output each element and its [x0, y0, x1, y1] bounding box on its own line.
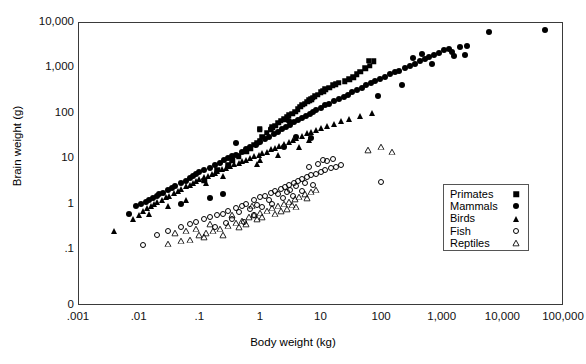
data-point-fish — [330, 156, 336, 162]
data-point-mammals — [207, 195, 213, 201]
data-point-birds — [257, 157, 263, 163]
data-point-reptiles — [378, 143, 385, 149]
x-tick-label: 100,000 — [542, 311, 584, 323]
legend-item-reptiles: Reptiles — [444, 237, 528, 249]
data-point-primates — [366, 58, 372, 64]
data-point-fish — [187, 221, 193, 227]
data-point-reptiles — [172, 230, 179, 236]
data-point-reptiles — [220, 232, 227, 238]
data-point-reptiles — [229, 212, 236, 218]
data-point-mammals — [462, 52, 468, 58]
x-axis-title: Body weight (kg) — [0, 336, 586, 348]
y-axis-title: Brain weight (g) — [11, 66, 23, 226]
legend-box: PrimatesMammalsBirdsFishReptiles — [443, 184, 529, 251]
data-point-reptiles — [201, 234, 208, 240]
data-point-fish — [154, 232, 160, 238]
legend-item-label: Reptiles — [450, 238, 511, 249]
y-tick-label: .1 — [64, 243, 74, 255]
data-point-fish — [207, 214, 213, 220]
legend-symbol-filled-circle — [511, 201, 521, 211]
data-point-mammals — [419, 51, 425, 57]
data-point-mammals — [399, 82, 405, 88]
legend-item-label: Mammals — [450, 201, 511, 212]
data-point-reptiles — [259, 214, 266, 220]
data-point-fish — [320, 157, 326, 163]
data-point-birds — [165, 203, 171, 209]
data-point-reptiles — [277, 208, 284, 214]
data-point-primates — [371, 59, 377, 65]
data-point-fish — [302, 180, 308, 186]
data-point-fish — [293, 183, 299, 189]
data-point-birds — [111, 228, 117, 234]
data-point-reptiles — [182, 228, 189, 234]
y-tick-label: 10,000 — [39, 16, 74, 28]
data-point-birds — [324, 123, 330, 129]
legend-symbol-filled-triangle — [511, 214, 521, 224]
data-point-birds — [146, 211, 152, 217]
x-tick-label: 10,000 — [485, 311, 520, 323]
x-tick-label: 1,000 — [427, 311, 456, 323]
legend-item-label: Primates — [450, 189, 511, 200]
x-tick-label: .01 — [131, 311, 147, 323]
data-point-mammals — [268, 126, 274, 132]
legend-item-label: Birds — [450, 213, 511, 224]
data-point-reptiles — [313, 187, 320, 193]
data-point-mammals — [220, 191, 226, 197]
legend-symbol-open-circle — [511, 226, 521, 236]
data-point-mammals — [375, 93, 381, 99]
data-point-birds — [346, 116, 352, 122]
data-point-birds — [318, 125, 324, 131]
data-point-birds — [275, 152, 281, 158]
data-point-reptiles — [304, 195, 311, 201]
data-point-birds — [331, 121, 337, 127]
data-point-fish — [140, 242, 146, 248]
data-point-mammals — [286, 118, 292, 124]
x-tick-label: 10 — [314, 311, 327, 323]
y-tick-label: 100 — [55, 107, 74, 119]
data-point-reptiles — [225, 223, 232, 229]
data-point-reptiles — [243, 221, 250, 227]
data-point-mammals — [233, 140, 239, 146]
data-point-primates — [257, 126, 263, 132]
y-tick-label: 1,000 — [45, 61, 74, 73]
data-point-fish — [378, 179, 384, 185]
data-point-reptiles — [388, 148, 395, 154]
data-point-reptiles — [364, 147, 371, 153]
data-point-birds — [203, 180, 209, 186]
data-point-birds — [220, 173, 226, 179]
data-point-birds — [369, 110, 375, 116]
legend-item-mammals: Mammals — [444, 200, 528, 212]
data-point-fish — [306, 164, 312, 170]
data-point-birds — [306, 137, 312, 143]
x-tick-label: 100 — [372, 311, 391, 323]
legend-symbol-filled-square — [511, 189, 521, 199]
data-point-mammals — [457, 44, 463, 50]
data-point-mammals — [410, 55, 416, 61]
data-point-reptiles — [193, 225, 200, 231]
y-tick-label: 0 — [68, 299, 74, 311]
data-point-reptiles — [249, 202, 256, 208]
data-point-reptiles — [206, 221, 213, 227]
legend-item-birds: Birds — [444, 213, 528, 225]
plot-area — [78, 22, 563, 305]
data-point-birds — [357, 113, 363, 119]
data-point-reptiles — [186, 237, 193, 243]
y-tick-label: 10 — [61, 152, 74, 164]
y-tick-label: 1 — [68, 198, 74, 210]
data-point-mammals — [464, 43, 470, 49]
data-point-fish — [165, 228, 171, 234]
data-point-reptiles — [164, 241, 171, 247]
legend-item-fish: Fish — [444, 225, 528, 237]
data-point-fish — [236, 209, 242, 215]
data-point-primates — [336, 80, 342, 86]
data-point-birds — [338, 118, 344, 124]
data-point-mammals — [542, 27, 548, 33]
legend-symbol-open-triangle — [511, 238, 521, 248]
legend-item-primates: Primates — [444, 188, 528, 200]
data-point-mammals — [486, 29, 492, 35]
brain-body-weight-scatter-figure: 10,0001,000100101.10 .001.01.11101001,00… — [0, 0, 586, 364]
legend-item-label: Fish — [450, 226, 511, 237]
data-point-birds — [183, 197, 189, 203]
data-point-birds — [296, 144, 302, 150]
x-tick-label: .1 — [194, 311, 204, 323]
